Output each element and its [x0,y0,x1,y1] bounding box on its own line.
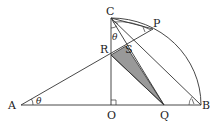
angle-arc-C [111,26,117,28]
angle-label-A: θ [36,96,42,106]
label-C: C [106,5,114,18]
shaded-triangle-RSQ [111,46,164,105]
label-R: R [100,43,109,56]
tick-mark-B-arc [189,97,192,105]
line-RQ [111,55,164,105]
tick-mark-B [192,99,194,104]
label-S: S [125,43,133,56]
label-Q: Q [160,109,169,122]
label-A: A [7,99,17,112]
label-P: P [153,17,161,30]
label-B: B [202,99,210,112]
geometry-diagram: C P R S A O Q B θ θ [0,0,215,126]
angle-label-C: θ [112,32,118,42]
angle-arc-A [32,99,34,105]
tick-mark-P [143,27,145,32]
right-angle-mark [111,100,116,105]
label-O: O [107,109,116,122]
